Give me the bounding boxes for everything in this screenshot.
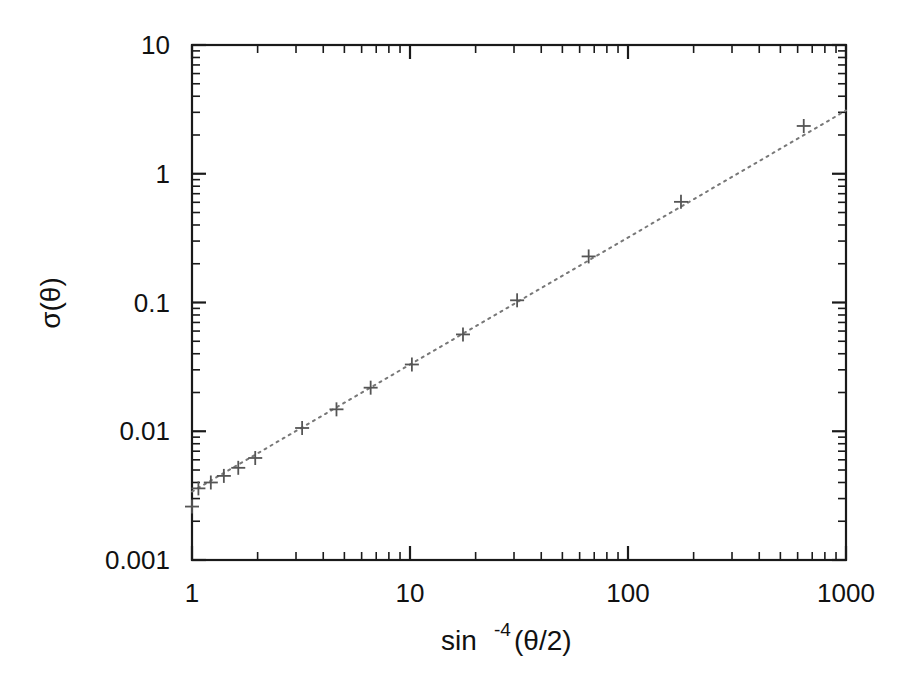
y-tick-label: 0.01 [119, 416, 170, 446]
x-axis-title-tail: (θ/2) [514, 625, 572, 656]
y-tick-label: 0.001 [105, 545, 170, 575]
scatter-plot-figure: 1101001000 1010.10.010.001 sin -4 (θ/2) … [0, 0, 914, 681]
x-axis-title-superscript: -4 [494, 619, 511, 640]
x-tick-label: 1000 [817, 578, 875, 608]
y-axis-title: σ(θ) [35, 277, 66, 329]
y-tick-label: 1 [156, 159, 170, 189]
x-tick-label: 10 [396, 578, 425, 608]
x-tick-label: 1 [185, 578, 199, 608]
y-tick-label: 0.1 [134, 288, 170, 318]
x-tick-label: 100 [606, 578, 649, 608]
plot-canvas: 1101001000 1010.10.010.001 sin -4 (θ/2) … [0, 0, 914, 681]
figure-background [0, 0, 914, 681]
y-tick-label: 10 [141, 30, 170, 60]
x-axis-title-main: sin [441, 625, 477, 656]
